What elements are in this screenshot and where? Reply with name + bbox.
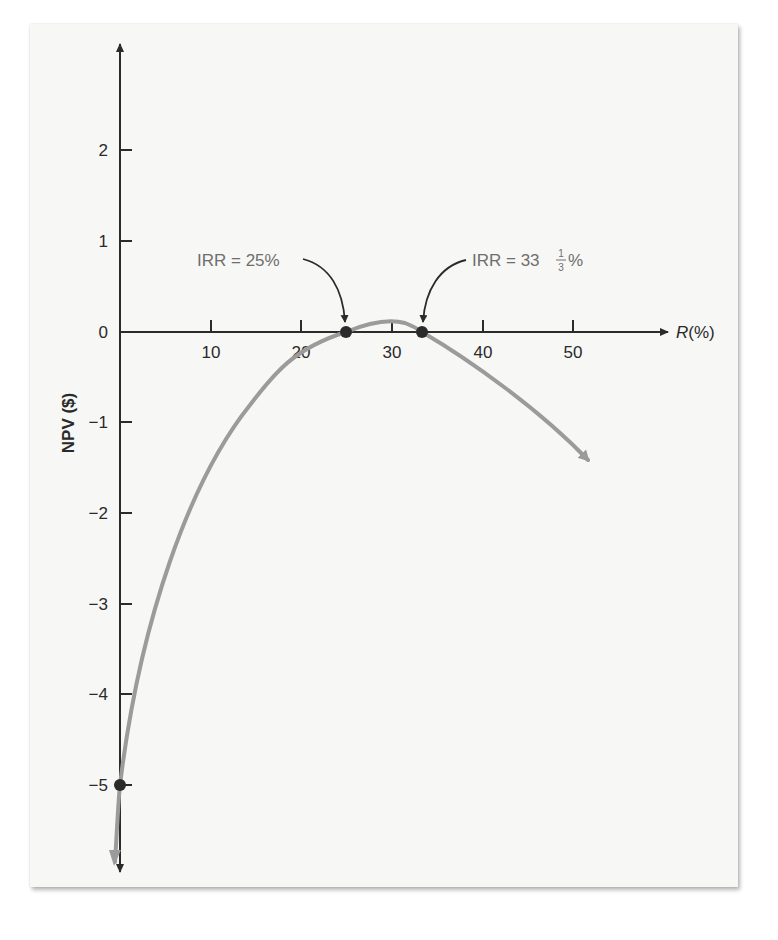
irr2-label-numerator: 1 (558, 248, 564, 259)
irr2-label-denominator: 3 (558, 262, 564, 273)
irr2-label-whole: IRR = 33 (472, 251, 540, 270)
y-tick-label: −3 (89, 595, 108, 614)
irr1-pointer-arrow (303, 259, 345, 322)
x-axis-title-variable: R (676, 323, 688, 342)
point-npv-at-zero (114, 779, 126, 791)
x-tick-label: 50 (564, 343, 583, 362)
y-tick-label: −4 (89, 685, 108, 704)
y-tick-label: 2 (99, 141, 108, 160)
irr2-label-suffix: % (568, 251, 583, 270)
x-axis-title-unit: (%) (688, 323, 714, 342)
y-tick-label: −2 (89, 504, 108, 523)
irr2-pointer-arrow (423, 260, 466, 322)
x-tick-label: 30 (383, 343, 402, 362)
x-tick-label: 10 (202, 343, 221, 362)
x-tick-label: 40 (474, 343, 493, 362)
y-tick-label: 0 (99, 323, 108, 342)
point-irr-33 (416, 326, 428, 338)
npv-curve (115, 321, 588, 862)
y-tick-label: −5 (89, 776, 108, 795)
irr1-label: IRR = 25% (197, 251, 280, 270)
y-axis-title: NPV ($) (59, 393, 78, 453)
npv-profile-chart: 2 1 0 −1 −2 −3 −4 −5 10 20 30 40 50 R(%)… (0, 0, 778, 940)
irr2-label: IRR = 33 1 3 % (472, 248, 583, 273)
y-tick-label: −1 (89, 413, 108, 432)
point-irr-25 (340, 326, 352, 338)
x-axis-title: R(%) (676, 323, 715, 342)
y-tick-label: 1 (99, 232, 108, 251)
y-ticks (120, 150, 132, 785)
